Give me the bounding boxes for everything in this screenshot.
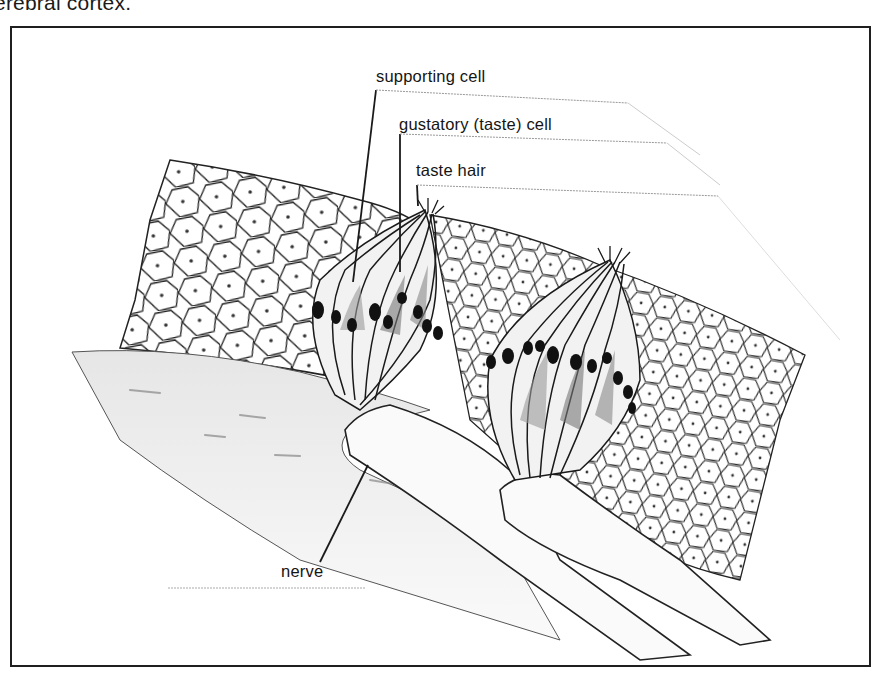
label-gustatory-cell: gustatory (taste) cell: [399, 115, 552, 134]
label-supporting-cell: supporting cell: [376, 67, 485, 86]
label-taste-hair: taste hair: [416, 161, 486, 180]
label-nerve: nerve: [281, 562, 323, 581]
taste-bud-illustration: [0, 0, 884, 691]
